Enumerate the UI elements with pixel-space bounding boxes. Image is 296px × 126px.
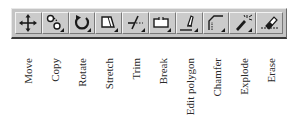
explode-button[interactable] [229,12,256,34]
label-move: Move [22,58,33,84]
copy-button[interactable] [42,12,69,34]
rotate-icon [72,13,92,33]
trim-icon [126,13,146,33]
erase-icon [260,13,280,33]
label-trim: Trim [130,58,141,80]
edit-polygon-button[interactable] [176,12,203,34]
erase-button[interactable] [256,12,283,34]
label-chamfer: Chamfer [211,58,222,96]
copy-icon [45,13,65,33]
move-button[interactable] [15,12,42,34]
label-edit-polygon: Edit polygon [184,58,195,115]
stretch-icon [99,13,119,33]
chamfer-icon [206,13,226,33]
stretch-button[interactable] [95,12,122,34]
rotate-button[interactable] [69,12,96,34]
break-button[interactable] [149,12,176,34]
move-icon [18,13,38,33]
label-break: Break [157,58,168,84]
break-icon [152,13,172,33]
label-erase: Erase [265,58,276,82]
label-rotate: Rotate [76,58,87,87]
explode-icon [233,13,253,33]
trim-button[interactable] [122,12,149,34]
edit-polygon-icon [179,13,199,33]
label-explode: Explode [238,58,249,95]
toolbar-labels: Move Copy Rotate Stretch Trim Break Edit… [11,58,287,124]
modify-toolbar [11,8,287,39]
chamfer-button[interactable] [203,12,230,34]
toolbar-buttons [15,12,283,34]
label-stretch: Stretch [103,58,114,89]
label-copy: Copy [49,58,60,82]
